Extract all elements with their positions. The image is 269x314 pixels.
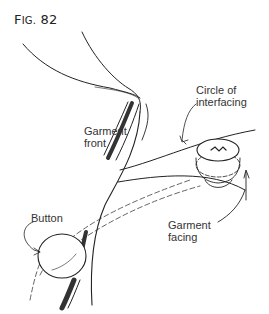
garment-front-edge-right	[82, 32, 141, 112]
leader-button	[24, 222, 40, 252]
label-circle-of-interfacing: Circle of interfacing	[196, 84, 247, 108]
label-garment-facing: Garment facing	[168, 219, 211, 243]
leader-circle-of-interfacing	[182, 104, 196, 144]
label-button: Button	[31, 212, 63, 224]
label-garment-front: Garment front	[84, 125, 127, 149]
button-drawing	[38, 234, 86, 278]
garment-front-edge-left	[23, 44, 140, 98]
sewing-diagram	[0, 0, 269, 314]
